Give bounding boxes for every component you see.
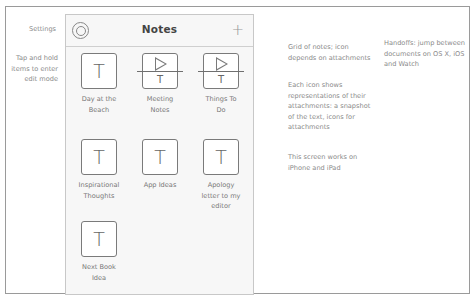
note-title-line: Thoughts xyxy=(66,191,132,202)
media-text-note-icon: T xyxy=(142,53,178,89)
note-item[interactable]: T App Ideas xyxy=(127,139,193,191)
text-note-icon: T xyxy=(142,139,178,175)
note-title-line: App Ideas xyxy=(127,180,193,191)
note-title-line: Next Book xyxy=(66,262,132,273)
text-glyph: T xyxy=(82,227,116,251)
note-title-line: Meeting xyxy=(127,94,193,105)
note-title-line: Notes xyxy=(127,105,193,116)
annotation-line: of the text, icons for xyxy=(288,112,378,123)
note-item[interactable]: T Things To Do xyxy=(188,53,254,115)
text-glyph: T xyxy=(204,73,238,86)
text-note-icon: T xyxy=(81,221,117,257)
nav-header: Notes + xyxy=(66,15,253,47)
annotation-line: attachments: a snapshot xyxy=(288,101,378,112)
annotation-line: attachments xyxy=(288,122,378,133)
note-title: Things To Do xyxy=(188,94,254,115)
annotation-line: and Watch xyxy=(384,59,470,70)
play-icon xyxy=(155,57,167,71)
note-title: Next Book Idea xyxy=(66,262,132,283)
add-note-button[interactable]: + xyxy=(231,20,244,40)
note-title-line: Inspirational xyxy=(66,180,132,191)
annotation-settings: Settings xyxy=(8,24,56,35)
divider xyxy=(198,71,244,72)
annotation-grid: Grid of notes; icon depends on attachmen… xyxy=(288,42,378,63)
annotation-line: representations of their xyxy=(288,91,378,102)
note-title-line: letter to my xyxy=(188,191,254,202)
annotation-device: This screen works on iPhone and iPad xyxy=(288,152,378,173)
media-text-note-icon: T xyxy=(203,53,239,89)
annotation-line: edit mode xyxy=(6,74,58,85)
text-glyph: T xyxy=(143,73,177,86)
annotation-line: depends on attachments xyxy=(288,53,378,64)
note-item[interactable]: T Inspirational Thoughts xyxy=(66,139,132,201)
text-glyph: T xyxy=(82,59,116,83)
annotation-line: Tap and hold xyxy=(6,53,58,64)
text-note-icon: T xyxy=(203,139,239,175)
annotation-line: Handoffs: jump between xyxy=(384,38,470,49)
phone-screen: Notes + T Day at the Beach T Meeting Not… xyxy=(65,14,254,295)
annotation-line: iPhone and iPad xyxy=(288,163,378,174)
note-title: App Ideas xyxy=(127,180,193,191)
note-item[interactable]: T Next Book Idea xyxy=(66,221,132,283)
note-title-line: editor xyxy=(188,201,254,212)
annotation-line: items to enter xyxy=(6,64,58,75)
annotation-line: documents on OS X, iOS xyxy=(384,49,470,60)
annotation-line: This screen works on xyxy=(288,152,378,163)
note-title-line: Things To xyxy=(188,94,254,105)
note-title-line: Day at the xyxy=(66,94,132,105)
note-title-line: Apology xyxy=(188,180,254,191)
note-title: Meeting Notes xyxy=(127,94,193,115)
annotation-line: Settings xyxy=(8,24,56,35)
divider xyxy=(137,71,183,72)
text-note-icon: T xyxy=(81,139,117,175)
text-note-icon: T xyxy=(81,53,117,89)
text-glyph: T xyxy=(204,145,238,169)
note-title-line: Idea xyxy=(66,273,132,284)
note-title: Apology letter to my editor xyxy=(188,180,254,212)
text-glyph: T xyxy=(143,145,177,169)
note-item[interactable]: T Day at the Beach xyxy=(66,53,132,115)
text-glyph: T xyxy=(82,145,116,169)
note-title-line: Beach xyxy=(66,105,132,116)
annotation-icon: Each icon shows representations of their… xyxy=(288,80,378,133)
annotation-tap-hold: Tap and hold items to enter edit mode xyxy=(6,53,58,85)
note-item[interactable]: T Apology letter to my editor xyxy=(188,139,254,212)
note-title: Inspirational Thoughts xyxy=(66,180,132,201)
page-title: Notes xyxy=(66,23,253,35)
annotation-line: Each icon shows xyxy=(288,80,378,91)
play-icon xyxy=(216,57,228,71)
note-title-line: Do xyxy=(188,105,254,116)
annotation-handoff: Handoffs: jump between documents on OS X… xyxy=(384,38,470,70)
annotation-line: Grid of notes; icon xyxy=(288,42,378,53)
note-title: Day at the Beach xyxy=(66,94,132,115)
note-item[interactable]: T Meeting Notes xyxy=(127,53,193,115)
